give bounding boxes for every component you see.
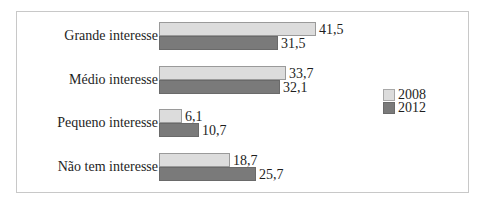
category-label: Grande interesse [64,28,158,44]
category-label: Pequeno interesse [57,115,158,131]
value-label-2008: 6,1 [185,110,203,124]
value-label-2008: 41,5 [319,23,344,37]
bar-2008 [159,66,286,80]
value-label-2012: 32,1 [283,81,308,95]
category-label: Médio interesse [69,72,158,88]
bar-2012 [159,167,256,181]
category-label: Não tem interesse [58,159,158,175]
bar-2008 [159,153,230,167]
value-label-2008: 18,7 [233,154,258,168]
bar-2012 [159,123,199,137]
bar-2008 [159,22,316,36]
bar-2008 [159,109,182,123]
bar-2012 [159,80,280,94]
legend: 2008 2012 [383,89,426,115]
legend-item-2012: 2012 [383,102,426,114]
legend-swatch-2012 [383,102,395,114]
legend-label-2012: 2012 [398,102,426,114]
value-label-2012: 25,7 [259,168,284,182]
value-label-2012: 10,7 [202,124,227,138]
value-label-2012: 31,5 [281,37,306,51]
bar-2012 [159,36,278,50]
value-label-2008: 33,7 [289,67,314,81]
legend-swatch-2008 [383,89,395,101]
